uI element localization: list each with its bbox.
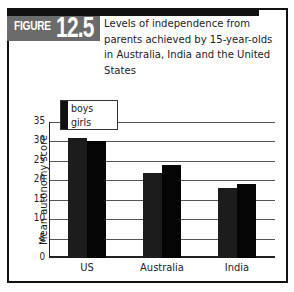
figure-top-edge [259, 8, 288, 10]
legend: boys girls [60, 100, 118, 130]
bar-india-girls [237, 184, 256, 258]
y-tick-label: 0 [29, 250, 45, 263]
x-tick-label-australia: Australia [131, 261, 194, 274]
bar-us-girls [87, 141, 106, 258]
y-tick-label: 25 [29, 153, 45, 166]
title-line: States [104, 63, 284, 79]
title-line: Levels of independence from [104, 16, 284, 32]
y-axis [49, 122, 50, 258]
y-tick-label: 5 [29, 231, 45, 244]
legend-item-girls: girls [71, 116, 91, 128]
y-tick-label: 30 [29, 133, 45, 146]
figure-title: Levels of independence from parents achi… [104, 16, 284, 78]
legend-swatch [61, 101, 68, 129]
plot-area [49, 122, 275, 258]
bar-australia-boys [143, 173, 162, 258]
legend-item-boys: boys [71, 102, 93, 114]
y-axis-label: Mean autonomy score [37, 135, 50, 245]
title-line: parents achieved by 15-year-olds [104, 32, 284, 48]
figure-label: FIGURE [14, 18, 51, 33]
x-tick-label-india: India [206, 261, 269, 274]
figure-top-bar [7, 8, 259, 16]
title-line: in Australia, India and the United [104, 47, 284, 63]
y-tick-label: 35 [29, 114, 45, 127]
y-tick-label: 20 [29, 172, 45, 185]
bar-india-boys [218, 188, 237, 258]
y-tick-label: 10 [29, 211, 45, 224]
bar-australia-girls [162, 165, 181, 258]
figure-number: 12.5 [56, 11, 94, 44]
x-tick-label-us: US [56, 261, 119, 274]
bar-us-boys [68, 138, 87, 258]
y-tick-label: 15 [29, 192, 45, 205]
